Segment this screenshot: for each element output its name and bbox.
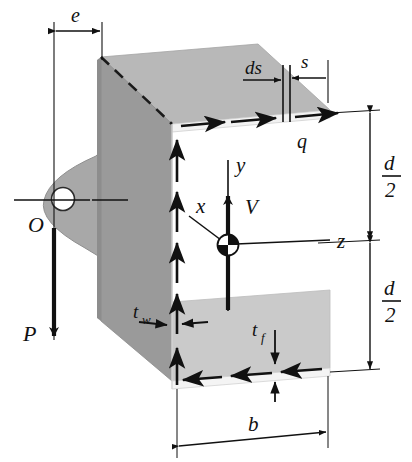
label-d-upper-den: 2 [385,178,396,202]
label-y: y [234,153,246,177]
label-d-lower-num: d [384,276,395,300]
label-tf-base: t [252,319,258,340]
label-P: P [22,321,36,346]
figure-canvas: e ds s q [0,0,412,462]
web-side-face [97,57,101,321]
label-tw-sub: w [142,312,151,327]
pin-hole [52,188,75,211]
z-axis-line [236,240,330,244]
label-d-lower-den: 2 [385,303,396,327]
label-ds: ds [245,57,262,78]
label-e: e [71,4,80,26]
label-V: V [245,195,260,219]
label-q: q [297,130,307,153]
depth-ext-bottom [330,369,380,372]
origin-marker [218,235,239,256]
diagram-svg: e ds s q [0,0,412,462]
label-b: b [248,412,259,436]
x-axis-line [189,216,221,240]
label-tw-base: t [133,301,139,322]
label-x: x [195,194,206,218]
dimension-b: b [177,376,328,458]
label-s: s [301,51,308,72]
dimension-depth: d 2 d 2 [318,110,401,372]
label-z: z [336,229,345,253]
coordinate-axes: y z x V [189,153,345,311]
bottom-flange-top-surface [172,290,330,381]
label-O: O [28,212,44,237]
depth-ext-top [330,110,380,113]
label-d-upper-num: d [384,151,395,175]
